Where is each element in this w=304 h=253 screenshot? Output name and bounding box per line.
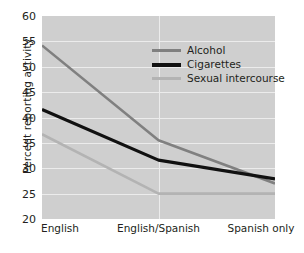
- y-axis-tick-labels: 605550454035302520: [0, 0, 40, 253]
- legend-item: Sexual intercourse: [152, 72, 292, 85]
- legend-color-swatch: [152, 77, 181, 80]
- y-axis-tick-label: 50: [2, 61, 36, 72]
- x-axis-tick-label: English/Spanish: [117, 222, 200, 234]
- x-axis-tick-labels: EnglishEnglish/SpanishSpanish only: [0, 222, 304, 242]
- series-line: [42, 134, 275, 193]
- legend-item-label: Cigarettes: [187, 59, 241, 70]
- legend-item: Alcohol: [152, 44, 292, 57]
- y-axis-tick-label: 25: [2, 188, 36, 199]
- legend-item-label: Alcohol: [187, 45, 225, 56]
- y-axis-tick-label: 40: [2, 112, 36, 123]
- x-axis-tick-label: English: [41, 222, 79, 234]
- legend-color-swatch: [152, 49, 181, 52]
- y-axis-tick-label: 60: [2, 11, 36, 22]
- y-axis-tick-label: 45: [2, 87, 36, 98]
- chart-legend: AlcoholCigarettesSexual intercourse: [152, 44, 292, 86]
- legend-color-swatch: [152, 63, 181, 67]
- line-chart: Percent reporting activity 6055504540353…: [0, 0, 304, 253]
- y-axis-tick-label: 30: [2, 163, 36, 174]
- y-axis-tick-label: 55: [2, 36, 36, 47]
- x-axis-tick-label: Spanish only: [227, 222, 294, 234]
- legend-item: Cigarettes: [152, 58, 292, 71]
- series-line: [42, 109, 275, 179]
- y-axis-tick-label: 35: [2, 137, 36, 148]
- legend-item-label: Sexual intercourse: [187, 73, 285, 84]
